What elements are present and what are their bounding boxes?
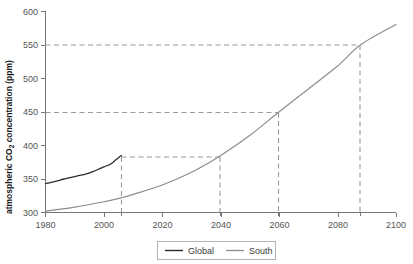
y-tick-label-400: 400 <box>23 141 38 151</box>
x-tick-label-2060: 2060 <box>269 220 289 230</box>
legend-label-south[interactable]: South <box>249 246 273 256</box>
global-curve <box>46 155 122 183</box>
y-axis-title-main: atmospheric CO <box>4 148 14 214</box>
y-axis-ticks: 600 550 500 450 400 350 300 <box>23 7 46 218</box>
series-south <box>46 24 397 211</box>
x-tick-label-2100: 2100 <box>386 220 406 230</box>
chart-svg: atmospheric CO2 concentration (ppm) 600 … <box>0 0 413 264</box>
co2-concentration-chart: atmospheric CO2 concentration (ppm) 600 … <box>0 0 413 264</box>
y-tick-label-300: 300 <box>23 208 38 218</box>
south-curve <box>46 24 397 211</box>
y-axis-title: atmospheric CO2 concentration (ppm) <box>4 60 15 214</box>
legend[interactable]: Global South <box>158 242 276 260</box>
x-axis-ticks: 1980 2000 2020 2040 2060 2080 2100 <box>35 213 406 231</box>
y-axis-title-rest: concentration (ppm) <box>4 60 14 145</box>
x-tick-label-1980: 1980 <box>35 220 55 230</box>
y-tick-label-350: 350 <box>23 174 38 184</box>
x-tick-label-2040: 2040 <box>211 220 231 230</box>
legend-label-global[interactable]: Global <box>188 246 214 256</box>
y-tick-label-600: 600 <box>23 7 38 17</box>
series-global <box>46 155 122 183</box>
svg-text:atmospheric CO2 concentration: atmospheric CO2 concentration (ppm) <box>4 60 15 214</box>
guide-lines <box>46 45 361 212</box>
x-tick-label-2000: 2000 <box>94 220 114 230</box>
y-tick-label-500: 500 <box>23 74 38 84</box>
axes <box>45 11 396 213</box>
cropped-title-remnant <box>4 0 324 3</box>
y-tick-label-450: 450 <box>23 107 38 117</box>
y-tick-label-550: 550 <box>23 40 38 50</box>
x-tick-label-2020: 2020 <box>152 220 172 230</box>
x-tick-label-2080: 2080 <box>328 220 348 230</box>
